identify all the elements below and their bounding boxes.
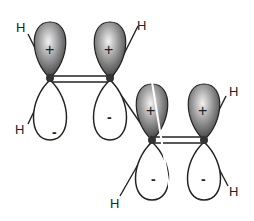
carbon-2 bbox=[106, 74, 114, 82]
carbon-3 bbox=[148, 136, 156, 144]
plus-sign-2: + bbox=[104, 41, 113, 58]
minus-sign-1: - bbox=[52, 124, 57, 140]
carbon-1 bbox=[46, 74, 54, 82]
orbital-diagram: + + + + - - - - H H H H H H bbox=[0, 0, 254, 221]
minus-sign-4: - bbox=[201, 171, 206, 187]
plus-sign-1: + bbox=[45, 41, 54, 58]
hydrogen-label-1: H bbox=[16, 20, 25, 35]
plus-sign-4: + bbox=[198, 102, 207, 119]
carbon-atoms bbox=[46, 74, 208, 144]
hydrogen-label-4: H bbox=[110, 196, 119, 211]
hydrogen-label-5: H bbox=[229, 84, 238, 99]
hydrogen-label-2: H bbox=[15, 122, 24, 137]
minus-sign-2: - bbox=[107, 109, 112, 125]
plus-sign-3: + bbox=[146, 102, 155, 119]
lobe-c1-bottom bbox=[34, 80, 67, 140]
hydrogen-label-6: H bbox=[229, 184, 238, 199]
hydrogen-label-3: H bbox=[137, 18, 146, 33]
minus-sign-3: - bbox=[151, 171, 156, 187]
carbon-4 bbox=[200, 136, 208, 144]
